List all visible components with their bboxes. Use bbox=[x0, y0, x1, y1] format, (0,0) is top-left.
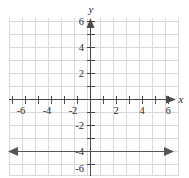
x-tick-label-pos2: 2 bbox=[113, 105, 118, 116]
y-tick-label-neg6: -6 bbox=[75, 163, 84, 174]
y-tick-label-pos2: 2 bbox=[79, 68, 84, 79]
x-axis-label: x bbox=[178, 93, 184, 105]
x-tick-label-neg2: -2 bbox=[69, 105, 78, 116]
x-tick-label-pos4: 4 bbox=[139, 105, 145, 116]
y-tick-label-pos4: 4 bbox=[79, 42, 85, 53]
y-tick-label-pos6: 6 bbox=[79, 16, 84, 27]
y-tick-label-neg4: -4 bbox=[75, 146, 84, 157]
y-tick-label-neg2: -2 bbox=[75, 120, 84, 131]
coordinate-plane-svg: -6 -4 -2 2 4 6 6 4 2 -2 -4 -6 x y bbox=[0, 0, 189, 178]
x-tick-label-pos6: 6 bbox=[165, 105, 170, 116]
x-tick-label-neg4: -4 bbox=[43, 105, 52, 116]
coordinate-plane-figure: -6 -4 -2 2 4 6 6 4 2 -2 -4 -6 x y bbox=[0, 0, 189, 178]
y-axis-label: y bbox=[88, 3, 94, 15]
x-tick-label-neg6: -6 bbox=[17, 105, 26, 116]
